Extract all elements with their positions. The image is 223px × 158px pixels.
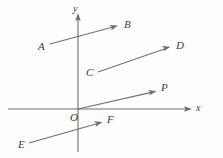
point-label-c: C — [86, 67, 93, 78]
vector-ab-line — [50, 27, 114, 44]
point-label-p: P — [161, 82, 168, 93]
point-label-a: A — [38, 41, 45, 52]
vector-cd-arrowhead — [162, 46, 171, 52]
diagram-canvas — [0, 0, 223, 158]
vector-cd-line — [98, 48, 167, 72]
point-label-e: E — [18, 139, 25, 150]
point-label-f: F — [107, 114, 114, 125]
vector-ef-line — [29, 123, 99, 143]
point-label-b: B — [124, 19, 131, 30]
vector-op-line — [78, 92, 153, 109]
y-axis-label: y — [73, 4, 77, 14]
x-axis-label: x — [196, 103, 200, 113]
vector-diagram-figure: x y O A B C D P E F — [0, 0, 223, 158]
origin-label: O — [70, 112, 78, 123]
point-label-d: D — [176, 40, 184, 51]
